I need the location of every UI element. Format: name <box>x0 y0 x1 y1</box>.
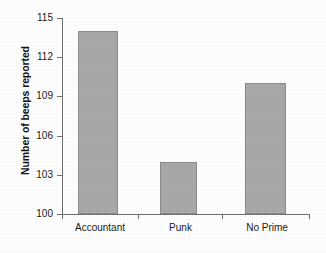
x-axis-line <box>62 214 310 215</box>
y-tick-106: 106 <box>57 136 62 137</box>
x-tick-end <box>309 214 310 219</box>
y-tick-112: 112 <box>57 57 62 58</box>
y-axis-line <box>62 18 63 215</box>
x-tick-start <box>62 214 63 219</box>
x-tick-div-1 <box>138 214 139 219</box>
y-tick-label-106: 106 <box>36 129 53 142</box>
x-category-label-punk: Punk <box>139 221 222 234</box>
bar-accountant <box>78 31 118 214</box>
x-tick-div-2 <box>222 214 223 219</box>
x-category-label-accountant: Accountant <box>60 221 140 234</box>
y-tick-109: 109 <box>57 96 62 97</box>
x-category-label-no-prime: No Prime <box>224 221 310 234</box>
y-tick-103: 103 <box>57 175 62 176</box>
y-tick-115: 115 <box>57 18 62 19</box>
bar-punk <box>160 162 197 214</box>
y-axis-title: Number of beeps reported <box>16 3 34 218</box>
bar-no-prime <box>245 83 286 214</box>
y-tick-label-103: 103 <box>36 168 53 181</box>
plot-area: 100 103 106 109 112 115 Accountant Punk … <box>62 18 310 214</box>
bar-chart-figure: Number of beeps reported 100 103 106 109… <box>0 0 326 253</box>
y-tick-label-109: 109 <box>36 89 53 102</box>
y-tick-label-115: 115 <box>37 11 53 24</box>
y-tick-label-112: 112 <box>37 50 53 63</box>
y-tick-label-100: 100 <box>36 207 53 220</box>
